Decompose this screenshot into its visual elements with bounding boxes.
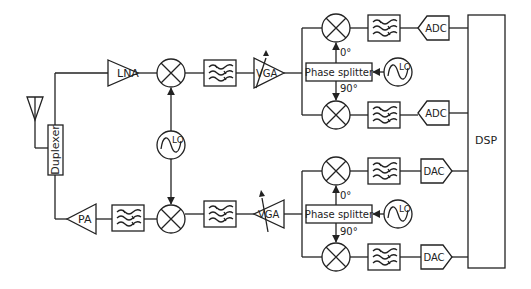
rx-q-mixer-icon bbox=[322, 101, 350, 129]
tx-q-filter-icon bbox=[368, 244, 400, 270]
duplexer-block: Duplexer bbox=[48, 125, 63, 175]
dsp-label: DSP bbox=[475, 134, 497, 147]
rx-phase-splitter-label: Phase splitter bbox=[305, 67, 374, 78]
tx-angle-90: 90° bbox=[340, 226, 358, 237]
rx-lo-label: LO bbox=[399, 62, 411, 72]
dac-q-block: DAC bbox=[421, 245, 452, 269]
pa-amplifier: PA bbox=[67, 204, 96, 234]
rx-lo-icon: LO bbox=[384, 58, 412, 86]
duplexer-label: Duplexer bbox=[49, 125, 62, 175]
adc-q-label: ADC bbox=[425, 108, 447, 119]
tx-vga-amplifier: VGA bbox=[254, 190, 284, 232]
tx-i-filter-icon bbox=[368, 158, 400, 184]
rx-i-filter-icon bbox=[368, 15, 400, 41]
pa-label: PA bbox=[78, 213, 92, 226]
tx-mixer-icon bbox=[157, 205, 185, 233]
lna-label: LNA bbox=[117, 67, 139, 80]
tx-angle-0: 0° bbox=[340, 190, 351, 201]
rx-angle-90: 90° bbox=[340, 83, 358, 94]
adc-q-block: ADC bbox=[418, 101, 449, 125]
pa-filter-icon bbox=[112, 205, 144, 231]
tx-phase-splitter-label: Phase splitter bbox=[305, 209, 374, 220]
tx-filter-icon bbox=[204, 201, 236, 227]
tx-phase-splitter: Phase splitter bbox=[305, 205, 374, 223]
adc-i-label: ADC bbox=[425, 23, 447, 34]
adc-i-block: ADC bbox=[418, 16, 449, 40]
rx-i-mixer-icon bbox=[322, 14, 350, 42]
rx-mixer-icon bbox=[157, 59, 185, 87]
dac-q-label: DAC bbox=[423, 252, 444, 263]
rx-vga-label: VGA bbox=[256, 68, 278, 79]
dac-i-block: DAC bbox=[421, 159, 452, 183]
dac-i-label: DAC bbox=[423, 166, 444, 177]
rx-angle-0: 0° bbox=[340, 47, 351, 58]
tx-i-mixer-icon bbox=[322, 157, 350, 185]
rx-phase-splitter: Phase splitter bbox=[305, 63, 374, 81]
dsp-block: DSP bbox=[468, 15, 505, 268]
main-lo-icon: LO bbox=[157, 131, 185, 159]
antenna-icon bbox=[27, 97, 48, 148]
transceiver-block-diagram: Duplexer LNA VGA LO Phase splitter 0° 90… bbox=[0, 0, 531, 289]
tx-lo-label: LO bbox=[399, 204, 411, 214]
rx-filter-icon bbox=[204, 60, 236, 86]
lna-amplifier: LNA bbox=[108, 60, 139, 86]
rx-vga-amplifier: VGA bbox=[254, 50, 284, 88]
rx-q-filter-icon bbox=[368, 102, 400, 128]
tx-q-mixer-icon bbox=[322, 243, 350, 271]
tx-lo-icon: LO bbox=[384, 200, 412, 228]
tx-vga-label: VGA bbox=[258, 209, 280, 220]
main-lo-label: LO bbox=[172, 135, 184, 145]
